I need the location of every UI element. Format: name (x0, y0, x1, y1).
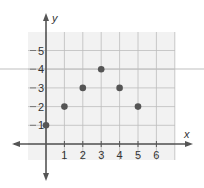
x-tick-label: 1 (61, 149, 67, 161)
coordinate-plane: x y 123456 12345 (0, 0, 204, 188)
x-tick-label: 6 (153, 149, 159, 161)
x-tick-label: 4 (117, 149, 123, 161)
y-tick-label: 4 (38, 63, 44, 75)
data-point (135, 103, 142, 110)
x-tick-label: 2 (80, 149, 86, 161)
y-tick-label: 3 (38, 82, 44, 94)
y-axis-label: y (51, 12, 59, 24)
data-point (43, 122, 50, 129)
x-axis-label: x (183, 128, 190, 140)
data-point (80, 85, 87, 92)
x-axis-right-arrow-icon (185, 141, 193, 147)
y-tick-label: 5 (38, 45, 44, 57)
y-axis-up-arrow-icon (43, 13, 49, 21)
y-axis-down-arrow-icon (43, 173, 49, 181)
x-tick-label: 5 (135, 149, 141, 161)
x-tick-label: 3 (98, 149, 104, 161)
data-point (116, 85, 123, 92)
data-point (98, 66, 105, 73)
y-tick-label: 2 (38, 101, 44, 113)
data-point (61, 103, 68, 110)
x-axis-left-arrow-icon (12, 141, 20, 147)
